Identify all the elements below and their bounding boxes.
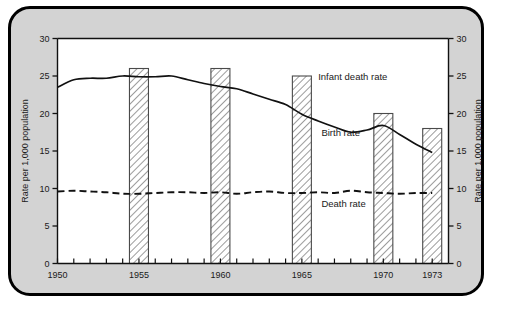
bar-infant-death-rate (292, 76, 311, 264)
plot-area: 0510152025300510152025301950195519601965… (20, 34, 483, 280)
bar-infant-death-rate (211, 69, 230, 264)
y-tick-label-right: 10 (457, 184, 467, 194)
figure-container: 0510152025300510152025301950195519601965… (0, 0, 506, 311)
y-tick-label-left: 5 (44, 221, 49, 231)
y-tick-label-left: 10 (39, 184, 49, 194)
y-tick-label-left: 15 (39, 146, 49, 156)
x-tick-label-1965: 1965 (292, 270, 312, 280)
chart-svg: 0510152025300510152025301950195519601965… (0, 0, 506, 311)
death-rate-label: Death rate (321, 198, 365, 209)
y-tick-label-right: 5 (457, 221, 462, 231)
bar-infant-death-rate (129, 69, 148, 264)
y-axis-title-right: Rate per 1,000 population (473, 99, 483, 203)
x-tick-label-1960: 1960 (210, 270, 230, 280)
y-axis-title-left: Rate per 1,000 population (20, 99, 30, 203)
x-tick-label-1970: 1970 (373, 270, 393, 280)
y-tick-label-right: 0 (457, 259, 462, 269)
y-tick-label-left: 0 (44, 259, 49, 269)
x-tick-label-1973: 1973 (422, 270, 442, 280)
y-tick-label-right: 15 (457, 146, 467, 156)
bar-infant-death-rate (374, 114, 393, 264)
birth-rate-label: Birth rate (321, 127, 360, 138)
y-tick-label-right: 20 (457, 109, 467, 119)
y-tick-label-left: 25 (39, 71, 49, 81)
y-tick-label-right: 30 (457, 34, 467, 44)
y-tick-label-left: 20 (39, 109, 49, 119)
y-tick-label-right: 25 (457, 71, 467, 81)
x-tick-label-1955: 1955 (129, 270, 149, 280)
infant-death-rate-label: Infant death rate (318, 71, 387, 82)
x-tick-label-1950: 1950 (47, 270, 67, 280)
y-tick-label-left: 30 (39, 34, 49, 44)
